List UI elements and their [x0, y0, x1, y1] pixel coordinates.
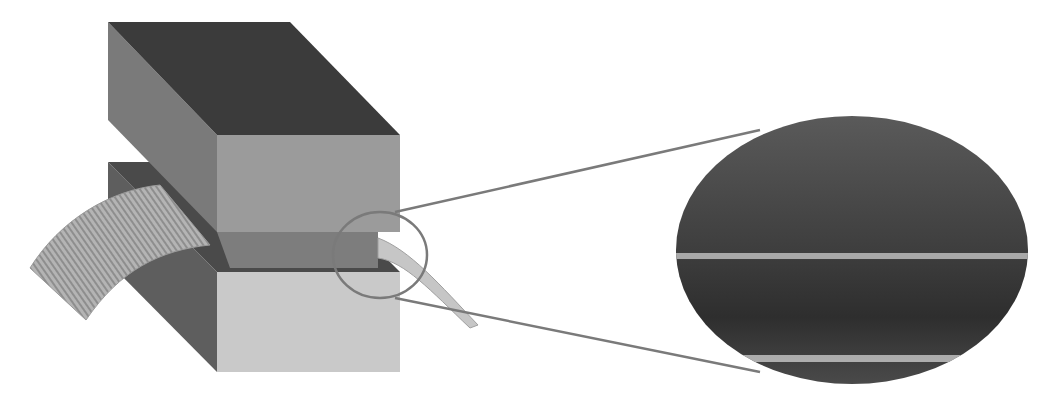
top-block-front [217, 135, 400, 232]
magnified-bright-layer [670, 253, 1030, 259]
bottom-block-front [217, 272, 400, 372]
press-diagram [0, 0, 1050, 404]
magnified-view [670, 116, 1030, 384]
magnified-lower-highlight [740, 355, 960, 362]
gap-plate [217, 232, 378, 268]
